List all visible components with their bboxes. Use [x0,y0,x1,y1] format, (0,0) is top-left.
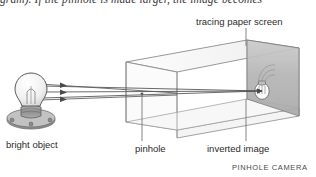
inverted-bulb-base [259,81,266,85]
socket-screw-left [10,118,14,122]
label-bright-object: bright object [6,139,58,150]
bright-object [7,73,55,129]
socket-screw-front [29,122,33,126]
socket-collar [21,105,41,118]
ray-arrowheads-near-source [60,83,67,103]
label-inverted-image: inverted image [207,143,269,154]
pinhole-camera-figure: gram). If the pinhole is made larger, th… [0,0,316,177]
figure-caption: PINHOLE CAMERA [232,163,308,172]
label-pinhole: pinhole [135,143,166,154]
label-tracing-paper-screen: tracing paper screen [196,16,283,27]
socket-screw-right [48,118,52,122]
